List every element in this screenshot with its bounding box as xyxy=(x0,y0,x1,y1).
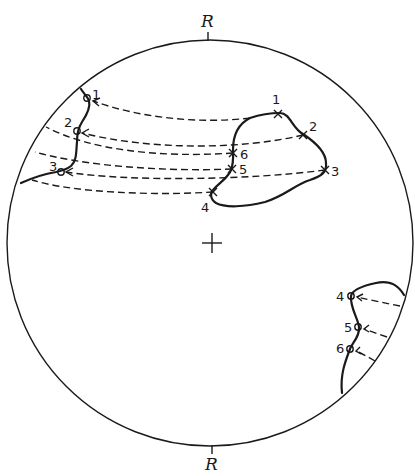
rotated-label-5: 5 xyxy=(344,320,352,335)
rotated-label-4: 4 xyxy=(336,289,344,304)
top-axis-label: R xyxy=(200,11,214,31)
source-label-3: 3 xyxy=(331,164,339,179)
stereonet-diagram: R R 1 2 3 4 5 6 1 2 3 xyxy=(0,0,415,476)
source-label-4: 4 xyxy=(201,200,209,215)
source-label-5: 5 xyxy=(239,162,247,177)
bottom-axis-label: R xyxy=(204,454,218,474)
center-cross-icon xyxy=(202,233,222,253)
rotated-label-2: 2 xyxy=(64,115,72,130)
rotated-label-3: 3 xyxy=(49,159,57,174)
source-label-2: 2 xyxy=(309,119,317,134)
source-label-1: 1 xyxy=(272,92,280,107)
source-label-6: 6 xyxy=(240,147,248,162)
rotated-label-1: 1 xyxy=(92,87,100,102)
rotated-label-6: 6 xyxy=(336,341,344,356)
